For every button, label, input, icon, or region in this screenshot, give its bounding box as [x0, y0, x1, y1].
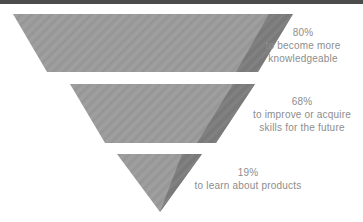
segment-1-label-line: knowledgeable	[242, 52, 363, 65]
segment-1-label: 80% to become more knowledgeable	[242, 26, 363, 65]
segment-2-label-line: to improve or acquire	[241, 108, 363, 121]
segment-3-percent: 19%	[187, 166, 309, 179]
segment-3-label-line: to learn about products	[187, 179, 309, 192]
segment-1-label-line: to become more	[242, 39, 363, 52]
segment-3-label: 19% to learn about products	[187, 166, 309, 192]
segment-2-percent: 68%	[241, 95, 363, 108]
segment-2-label: 68% to improve or acquire skills for the…	[241, 95, 363, 134]
funnel-chart: 80% to become more knowledgeable 68% to …	[0, 0, 363, 222]
segment-2-label-line: skills for the future	[241, 121, 363, 134]
segment-1-percent: 80%	[242, 26, 363, 39]
funnel-segment-2-texture	[70, 84, 255, 143]
